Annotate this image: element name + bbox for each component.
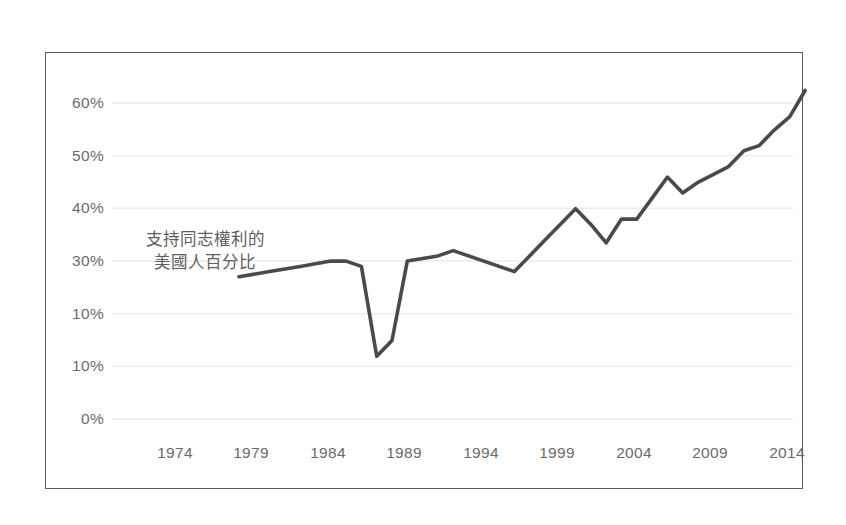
data-line-gay-rights-support bbox=[239, 91, 805, 357]
y-axis-tick-30: 30% bbox=[34, 252, 104, 270]
x-axis-tick-1999: 1999 bbox=[522, 444, 592, 462]
x-axis-tick-2014: 2014 bbox=[752, 444, 822, 462]
y-axis-tick-60: 60% bbox=[34, 94, 104, 112]
chart-figure: 60% 50% 40% 30% 10% 10% 0% 1974 1979 198… bbox=[0, 0, 846, 525]
series-annotation: 支持同志權利的 美國人百分比 bbox=[125, 228, 285, 275]
x-axis-tick-2004: 2004 bbox=[599, 444, 669, 462]
y-axis-tick-10: 10% bbox=[34, 357, 104, 375]
x-axis-tick-1989: 1989 bbox=[369, 444, 439, 462]
series-annotation-line-1: 支持同志權利的 bbox=[125, 228, 285, 251]
x-axis-tick-1994: 1994 bbox=[446, 444, 516, 462]
series-annotation-line-2: 美國人百分比 bbox=[125, 251, 285, 274]
x-axis-tick-1974: 1974 bbox=[140, 444, 210, 462]
x-axis-tick-1984: 1984 bbox=[293, 444, 363, 462]
y-axis-tick-0: 0% bbox=[34, 410, 104, 428]
y-axis-tick-50: 50% bbox=[34, 147, 104, 165]
x-axis-tick-1979: 1979 bbox=[216, 444, 286, 462]
x-axis-tick-2009: 2009 bbox=[675, 444, 745, 462]
y-axis-tick-20: 10% bbox=[34, 305, 104, 323]
y-axis-tick-40: 40% bbox=[34, 199, 104, 217]
